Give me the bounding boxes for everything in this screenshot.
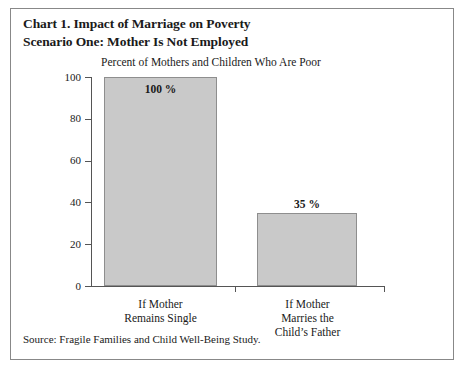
- y-axis-line: [91, 77, 92, 287]
- y-tick-label-20: 20: [55, 239, 81, 250]
- x-category-label-2: If Mother Marries the Child’s Father: [244, 297, 371, 339]
- chart-figure-frame: Chart 1. Impact of Marriage on Poverty S…: [10, 8, 454, 360]
- y-tick-40: [85, 202, 91, 203]
- x-category-label-2-line-1: If Mother: [244, 297, 371, 311]
- x-tick-center: [235, 286, 236, 292]
- x-category-label-2-line-3: Child’s Father: [244, 325, 371, 339]
- y-tick-label-40: 40: [55, 197, 81, 208]
- bar-if-mother-marries-childs-father[interactable]: [257, 213, 357, 286]
- y-tick-60: [85, 161, 91, 162]
- y-tick-0: [85, 286, 91, 287]
- y-tick-100: [85, 77, 91, 78]
- x-category-label-1-line-2: Remains Single: [97, 311, 224, 325]
- y-tick-label-60: 60: [55, 155, 81, 166]
- y-tick-label-100: 100: [55, 72, 81, 83]
- y-tick-80: [85, 119, 91, 120]
- x-tick-right-end: [384, 286, 385, 292]
- plot-area: 100 80 60 40 20 0 100 % 35 % If Mother R…: [11, 9, 455, 361]
- x-category-label-1: If Mother Remains Single: [97, 297, 224, 325]
- y-tick-label-80: 80: [55, 113, 81, 124]
- bar-value-label-1: 100 %: [104, 83, 217, 96]
- x-category-label-2-line-2: Marries the: [244, 311, 371, 325]
- bar-value-label-2: 35 %: [257, 198, 357, 211]
- x-category-label-1-line-1: If Mother: [97, 297, 224, 311]
- source-note: Source: Fragile Families and Child Well-…: [23, 332, 260, 346]
- y-tick-label-0: 0: [55, 281, 81, 292]
- y-tick-20: [85, 244, 91, 245]
- x-axis-line: [91, 286, 385, 287]
- bar-if-mother-remains-single[interactable]: [104, 77, 217, 286]
